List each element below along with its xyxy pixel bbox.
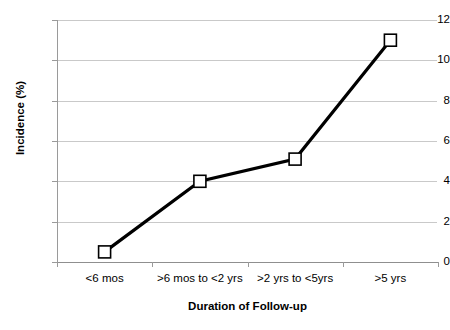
data-point-marker bbox=[99, 246, 111, 258]
line-chart: Incidence (%) 12 10 8 6 4 2 0 <6 mos bbox=[0, 0, 450, 330]
data-point-marker bbox=[194, 175, 206, 187]
x-axis-labels: <6 mos >6 mos to <2 yrs >2 yrs to <5yrs … bbox=[57, 270, 438, 288]
x-axis-title: Duration of Follow-up bbox=[57, 300, 438, 312]
data-point-marker bbox=[289, 153, 301, 165]
series-line bbox=[105, 40, 391, 252]
x-label-1: >6 mos to <2 yrs bbox=[152, 270, 247, 288]
x-label-0: <6 mos bbox=[57, 270, 152, 288]
x-label-2: >2 yrs to <5yrs bbox=[248, 270, 343, 288]
data-point-marker bbox=[384, 34, 396, 46]
x-label-3: >5 yrs bbox=[343, 270, 438, 288]
